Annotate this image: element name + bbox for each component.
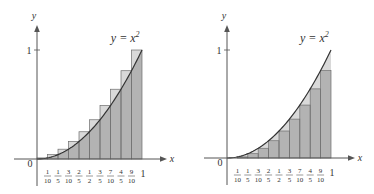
chart-panel-lower-sum: yx01y = x211015310251235710459101 <box>204 10 363 185</box>
x-tick-denominator: 5 <box>288 176 292 184</box>
x-tick-denominator: 10 <box>107 177 115 185</box>
bar-fill <box>310 89 320 158</box>
y-axis-arrow-icon <box>224 25 230 32</box>
x-tick-numerator: 1 <box>88 168 92 176</box>
x-axis-arrow-icon <box>160 156 167 162</box>
bar-fill <box>258 148 268 158</box>
x-tick-numerator: 3 <box>288 167 292 175</box>
x-tick-numerator: 7 <box>109 168 113 176</box>
y-axis-label: y <box>221 10 227 21</box>
x-tick-denominator: 5 <box>119 177 123 185</box>
x-tick-denominator: 10 <box>44 177 52 185</box>
bar-fill <box>321 71 331 158</box>
x-tick-numerator: 3 <box>256 167 260 175</box>
x-tick-numerator: 1 <box>46 168 50 176</box>
x-tick-denominator: 10 <box>317 176 325 184</box>
x-end-label: 1 <box>141 168 146 179</box>
bar-fill <box>289 119 299 158</box>
x-axis-label: x <box>169 153 175 164</box>
x-tick-numerator: 1 <box>246 167 250 175</box>
x-tick-numerator: 1 <box>236 167 240 175</box>
x-tick-denominator: 10 <box>65 177 73 185</box>
x-tick-numerator: 3 <box>67 168 71 176</box>
x-tick-denominator: 5 <box>308 176 312 184</box>
riemann-sum-charts: yx01y = x211015310251235710459101yx01y =… <box>0 0 374 194</box>
x-axis-label: x <box>357 152 363 163</box>
x-tick-numerator: 2 <box>77 168 81 176</box>
bar-fill <box>269 141 279 158</box>
x-tick-denominator: 5 <box>77 177 81 185</box>
bar-fill <box>248 154 258 158</box>
y-tick-label: 1 <box>217 45 222 56</box>
bar-fill <box>279 131 289 158</box>
x-tick-denominator: 5 <box>56 177 60 185</box>
x-tick-numerator: 4 <box>119 168 123 176</box>
x-axis-arrow-icon <box>348 155 355 161</box>
y-axis-label: y <box>31 10 37 21</box>
x-tick-numerator: 2 <box>267 167 271 175</box>
x-tick-numerator: 9 <box>130 168 134 176</box>
origin-label: 0 <box>218 157 223 168</box>
x-tick-numerator: 3 <box>98 168 102 176</box>
x-tick-denominator: 5 <box>246 176 250 184</box>
x-tick-denominator: 2 <box>88 177 92 185</box>
x-tick-denominator: 10 <box>234 176 242 184</box>
curve-label-exponent: 2 <box>136 30 140 39</box>
x-tick-denominator: 5 <box>267 176 271 184</box>
x-tick-numerator: 1 <box>56 168 60 176</box>
y-axis-arrow-icon <box>34 25 40 32</box>
x-tick-denominator: 10 <box>255 176 263 184</box>
riemann-sum-figure: yx01y = x211015310251235710459101yx01y =… <box>0 0 374 194</box>
chart-panel-upper-sum: yx01y = x211015310251235710459101 <box>14 10 175 186</box>
y-tick-label: 1 <box>27 45 32 56</box>
x-tick-denominator: 10 <box>128 177 136 185</box>
x-tick-numerator: 7 <box>298 167 302 175</box>
x-tick-denominator: 10 <box>296 176 304 184</box>
x-tick-denominator: 5 <box>98 177 102 185</box>
x-tick-numerator: 1 <box>277 167 281 175</box>
x-tick-numerator: 9 <box>319 167 323 175</box>
x-tick-denominator: 2 <box>277 176 281 184</box>
bar-fill <box>300 105 310 158</box>
curve-label: y = x2 <box>299 30 329 45</box>
x-end-label: 1 <box>330 167 335 178</box>
curve-label: y = x2 <box>110 30 140 45</box>
curve-label-exponent: 2 <box>325 30 329 39</box>
x-tick-numerator: 4 <box>308 167 312 175</box>
origin-label: 0 <box>28 158 33 169</box>
